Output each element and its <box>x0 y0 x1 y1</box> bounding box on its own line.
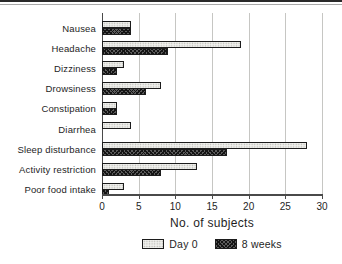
tick-label-x-5: 5 <box>127 201 151 212</box>
tick-label-x-25: 25 <box>273 201 297 212</box>
category-label-drowsiness: Drowsiness <box>0 83 96 94</box>
plot-area <box>102 13 322 195</box>
category-label-poor-food-intake: Poor food intake <box>0 184 96 195</box>
tick-label-x-15: 15 <box>200 201 224 212</box>
tick-label-x-0: 0 <box>90 201 114 212</box>
category-label-activity-restriction: Activity restriction <box>0 164 96 175</box>
gridline-x-20 <box>249 13 250 195</box>
tick-label-x-20: 20 <box>237 201 261 212</box>
legend-swatch-day0 <box>142 239 164 249</box>
category-label-dizziness: Dizziness <box>0 63 96 74</box>
x-axis-line <box>102 194 323 196</box>
category-label-constipation: Constipation <box>0 103 96 114</box>
bar-8weeks-constipation <box>102 108 117 115</box>
figure-bar-chart: No. of subjects Day 0 8 weeks 0510152025… <box>0 0 342 264</box>
bar-8weeks-sleep-disturbance <box>102 149 227 156</box>
legend-label-8weeks: 8 weeks <box>242 238 282 250</box>
category-label-diarrhea: Diarrhea <box>0 124 96 135</box>
tick-x-20 <box>249 195 250 199</box>
bar-8weeks-nausea <box>102 28 131 35</box>
top-rule-light <box>0 4 342 5</box>
legend-item-8weeks: 8 weeks <box>215 238 282 250</box>
bar-day0-diarrhea <box>102 122 131 129</box>
tick-label-x-10: 10 <box>163 201 187 212</box>
gridline-x-30 <box>322 13 323 195</box>
tick-x-25 <box>285 195 286 199</box>
legend-item-day0: Day 0 <box>142 238 197 250</box>
tick-x-10 <box>175 195 176 199</box>
tick-x-0 <box>102 195 103 199</box>
legend-label-day0: Day 0 <box>169 238 197 250</box>
top-rule-dark <box>0 0 342 2</box>
gridline-x-25 <box>285 13 286 195</box>
legend: Day 0 8 weeks <box>92 237 332 251</box>
tick-x-5 <box>139 195 140 199</box>
tick-label-x-30: 30 <box>310 201 334 212</box>
bar-8weeks-headache <box>102 48 168 55</box>
category-label-headache: Headache <box>0 43 96 54</box>
bar-8weeks-dizziness <box>102 68 117 75</box>
tick-x-30 <box>322 195 323 199</box>
x-axis-title: No. of subjects <box>102 216 322 230</box>
bar-8weeks-drowsiness <box>102 88 146 95</box>
category-label-nausea: Nausea <box>0 23 96 34</box>
category-label-sleep-disturbance: Sleep disturbance <box>0 144 96 155</box>
tick-x-15 <box>212 195 213 199</box>
legend-swatch-8weeks <box>215 239 237 249</box>
bar-8weeks-activity-restriction <box>102 169 161 176</box>
